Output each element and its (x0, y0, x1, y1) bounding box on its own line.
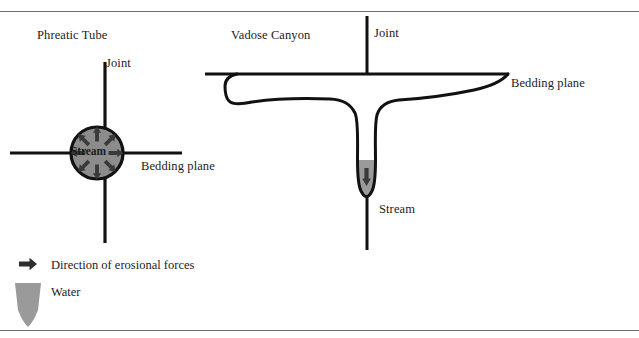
legend-icons-group (15, 258, 41, 327)
right-arrow-icon (19, 258, 37, 270)
legend-label-water: Water (51, 285, 81, 300)
vadose-canyon-title: Vadose Canyon (231, 28, 310, 42)
joint-label-left: Joint (106, 56, 131, 70)
stream-label-canyon: Stream (379, 202, 415, 216)
bedding-plane-label-left: Bedding plane (141, 159, 215, 173)
bedding-plane-label-right: Bedding plane (511, 76, 585, 90)
cave-passage-diagram: Phreatic Tube Vadose Canyon Joint Joint … (0, 0, 639, 338)
joint-label-right: Joint (374, 26, 399, 40)
vadose-canyon-group (205, 16, 509, 250)
legend-label-erosional-forces: Direction of erosional forces (51, 258, 194, 273)
diagram-vector-layer (0, 0, 639, 338)
stream-label-phreatic: Stream (71, 145, 106, 157)
water-shape-icon (15, 283, 41, 327)
phreatic-tube-title: Phreatic Tube (37, 28, 107, 42)
